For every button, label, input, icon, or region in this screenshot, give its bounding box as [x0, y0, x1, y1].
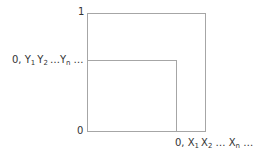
y-sequence-label: 0, Y1 Y2 …Yn …	[12, 54, 84, 66]
square-right-edge	[205, 13, 206, 132]
y-partition-line	[87, 60, 177, 61]
square-left-edge	[87, 13, 88, 132]
x-seq-suffix: …	[240, 137, 253, 148]
unit-square-diagram: 1 0 0, Y1 Y2 …Yn … 0, X1 X2 … Xn …	[0, 0, 263, 150]
x-sequence-label: 0, X1 X2 … Xn …	[175, 137, 253, 149]
y-seq-suffix: …	[70, 54, 83, 65]
y-seq-term-2: Y2	[37, 54, 48, 65]
x-seq-term-2: X2	[201, 137, 212, 148]
x-partition-line	[176, 60, 177, 132]
square-top-edge	[87, 13, 206, 14]
y-seq-prefix: 0,	[12, 54, 25, 65]
y-seq-term-n: …Yn	[50, 54, 71, 65]
x-seq-term-1: X1	[188, 137, 199, 148]
x-seq-prefix: 0,	[175, 137, 188, 148]
y-bottom-label: 0	[77, 125, 83, 137]
x-seq-term-n: … Xn	[212, 137, 240, 148]
y-seq-term-1: Y1	[25, 54, 36, 65]
y-top-label: 1	[78, 6, 84, 18]
square-bottom-edge	[87, 131, 206, 132]
